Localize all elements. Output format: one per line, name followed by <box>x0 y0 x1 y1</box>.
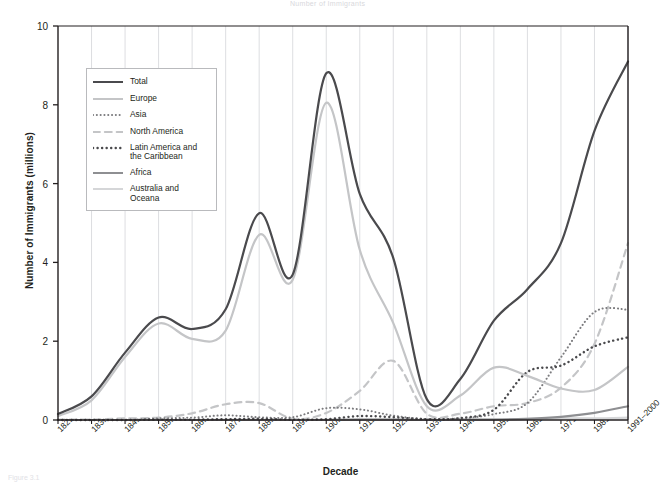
legend-swatch-icon <box>93 183 123 194</box>
legend-swatch-icon <box>93 76 123 87</box>
legend-swatch-icon <box>93 142 123 153</box>
legend-label: Australia and Oceana <box>130 183 210 202</box>
legend-swatch-icon <box>93 167 123 178</box>
legend-swatch-icon <box>93 109 123 120</box>
legend-label: Europe <box>130 93 157 103</box>
legend-item: Latin America and the Caribbean <box>93 142 210 161</box>
legend-item: Australia and Oceana <box>93 183 210 202</box>
legend-item: Total <box>93 76 210 87</box>
legend-item: Africa <box>93 167 210 178</box>
legend-label: Africa <box>130 167 151 177</box>
legend-item: Europe <box>93 93 210 104</box>
legend-item: North America <box>93 126 210 137</box>
legend-swatch-icon <box>93 126 123 137</box>
legend-label: Asia <box>130 109 146 119</box>
chart-legend: TotalEuropeAsiaNorth AmericaLatin Americ… <box>86 68 217 211</box>
legend-swatch-icon <box>93 93 123 104</box>
legend-item: Asia <box>93 109 210 120</box>
legend-label: Latin America and the Caribbean <box>130 142 210 161</box>
legend-label: North America <box>130 126 183 136</box>
cropped-bottom-caption: Figure 3.1 <box>8 474 228 486</box>
legend-label: Total <box>130 76 148 86</box>
